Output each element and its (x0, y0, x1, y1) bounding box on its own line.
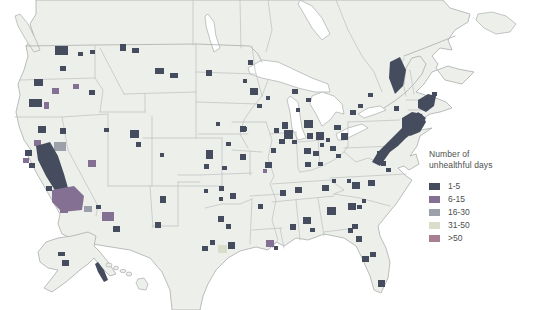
county-marker (326, 138, 330, 142)
county-marker (271, 148, 276, 153)
county-marker (89, 90, 95, 95)
legend-label-over-50: >50 (448, 233, 462, 243)
legend-items: 1-5 6-15 16-30 31-50 >50 (429, 180, 534, 245)
county-marker (386, 168, 391, 172)
county-marker (332, 179, 336, 183)
county-marker (306, 98, 311, 102)
county-marker (327, 207, 336, 215)
county-marker (313, 151, 319, 156)
county-marker (274, 246, 278, 250)
county-marker (341, 133, 348, 140)
county-marker (240, 154, 246, 160)
county-marker (284, 130, 293, 139)
legend-label-6-15: 6-15 (448, 194, 465, 204)
county-marker (305, 162, 311, 167)
county-marker (358, 104, 363, 108)
hawaii-molokai (120, 269, 126, 272)
legend-swatch-6-15 (429, 196, 440, 203)
county-marker (370, 252, 376, 257)
county-marker (160, 196, 166, 203)
county-marker (316, 132, 324, 140)
county-marker (280, 190, 286, 196)
county-marker (330, 146, 336, 151)
legend-swatch-1-5 (429, 183, 440, 190)
hawaii-big-island (136, 278, 148, 290)
hawaii-oahu (114, 266, 119, 270)
county-marker (120, 44, 126, 51)
county-marker (219, 197, 223, 201)
county-marker (368, 93, 373, 97)
county-marker (54, 142, 66, 151)
newfoundland-shape (476, 12, 516, 34)
county-marker (60, 66, 66, 71)
county-marker (155, 68, 164, 74)
legend-title-line2: unhealthful days (429, 160, 534, 171)
legend-label-16-30: 16-30 (448, 207, 470, 217)
county-marker (295, 187, 302, 193)
county-marker (46, 186, 52, 191)
county-marker (90, 50, 95, 54)
county-marker (84, 206, 92, 212)
legend-item-6-15: 6-15 (429, 193, 534, 206)
county-marker (44, 102, 49, 109)
county-marker (136, 142, 141, 147)
county-marker (104, 128, 109, 132)
legend-label-1-5: 1-5 (448, 181, 460, 191)
legend-item-31-50: 31-50 (429, 219, 534, 232)
county-marker (356, 236, 362, 242)
county-marker (226, 224, 231, 229)
county-marker (240, 126, 246, 132)
county-marker (257, 104, 262, 108)
county-marker (58, 252, 65, 256)
hawaii-kauai (106, 263, 112, 267)
county-marker (60, 128, 66, 134)
county-marker (347, 179, 351, 183)
county-marker (303, 217, 311, 224)
county-marker (352, 182, 360, 189)
map-legend: Number of unhealthful days 1-5 6-15 16-3… (429, 149, 534, 245)
county-marker (23, 158, 29, 163)
legend-title: Number of unhealthful days (429, 149, 534, 171)
county-marker (320, 143, 324, 147)
legend-item-1-5: 1-5 (429, 180, 534, 193)
county-marker (243, 79, 247, 83)
county-marker (282, 122, 288, 129)
county-marker (216, 122, 220, 126)
legend-swatch-31-50 (429, 222, 440, 229)
county-marker (160, 153, 164, 157)
county-marker (38, 126, 46, 133)
county-marker (96, 205, 101, 209)
county-marker (170, 73, 178, 78)
county-marker (350, 110, 356, 115)
county-marker (29, 99, 42, 107)
county-marker (318, 162, 323, 166)
county-marker (368, 180, 375, 186)
county-marker (88, 160, 96, 167)
county-marker (258, 204, 263, 209)
county-marker (250, 88, 258, 95)
county-marker (25, 150, 32, 156)
county-marker (222, 166, 227, 170)
county-marker (206, 150, 213, 159)
county-marker (130, 130, 139, 138)
county-marker (228, 242, 235, 249)
county-marker (55, 46, 68, 55)
county-marker (348, 203, 356, 210)
county-marker (290, 224, 296, 230)
county-marker (362, 256, 369, 262)
county-marker (334, 125, 341, 130)
county-marker (210, 240, 215, 245)
county-marker (362, 199, 366, 203)
county-marker (336, 154, 341, 158)
county-marker (204, 164, 209, 169)
county-marker (296, 108, 300, 112)
county-marker (226, 142, 231, 146)
legend-swatch-over-50 (429, 235, 440, 242)
county-marker (248, 60, 253, 65)
county-marker (307, 133, 313, 139)
hawaii-maui (126, 272, 132, 276)
county-marker (357, 205, 362, 209)
county-marker (322, 185, 329, 191)
county-marker (62, 260, 69, 266)
county-marker (304, 148, 311, 154)
